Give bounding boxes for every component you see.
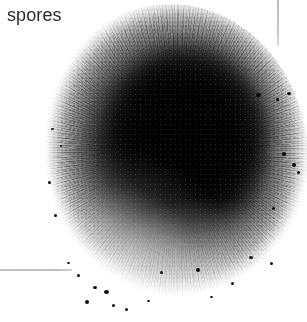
spore-speck — [48, 181, 51, 184]
leader-line-vertical — [277, 0, 279, 46]
spore-speck — [85, 300, 89, 304]
spore-speck — [249, 256, 253, 259]
spore-speck — [160, 271, 163, 274]
spore-speck — [147, 300, 150, 302]
spore-speck — [104, 290, 109, 294]
spore-speck — [93, 286, 97, 289]
spore-speck — [67, 262, 70, 264]
spore-mass-specimen — [36, 4, 307, 316]
spore-edge-feather — [36, 4, 307, 316]
spore-speck — [77, 274, 80, 277]
spore-speck — [272, 207, 275, 210]
spore-speck — [125, 308, 128, 311]
annotation-label-spores: spores — [7, 4, 62, 26]
spore-speck — [210, 296, 213, 298]
spore-speck — [60, 145, 62, 147]
spore-speck — [256, 93, 261, 97]
spore-speck — [54, 214, 57, 217]
leader-line-horizontal — [0, 269, 72, 271]
spore-speck — [231, 282, 234, 285]
figure-canvas: spores — [0, 0, 307, 322]
spore-speck — [292, 163, 296, 167]
spore-speck — [270, 262, 273, 265]
spore-speck — [51, 128, 54, 130]
spore-speck — [282, 152, 286, 156]
spore-speck — [276, 98, 279, 101]
spore-speck — [196, 268, 200, 272]
spore-speck — [297, 171, 300, 174]
spore-speck — [112, 304, 115, 307]
spore-speck — [287, 92, 291, 95]
